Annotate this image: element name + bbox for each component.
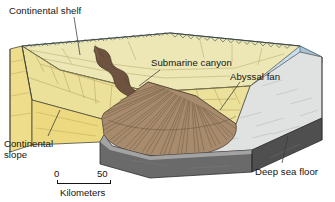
scale-bar-tick-left (57, 180, 58, 184)
label-continental-slope-line1: Continental (4, 138, 53, 149)
scale-bar-min-value: 0 (54, 168, 59, 179)
scale-bar: 0 50 Kilometers (54, 168, 128, 198)
label-continental-slope-line2: slope (4, 149, 27, 160)
scale-bar-units: Kilometers (60, 187, 128, 198)
label-abyssal-fan: Abyssal fan (230, 71, 280, 82)
scale-bar-numbers: 0 50 (54, 168, 128, 180)
scale-bar-max-value: 50 (97, 168, 108, 179)
label-continental-shelf: Continental shelf (9, 5, 81, 16)
block-diagram-figure: Continental shelf Submarine canyon Abyss… (0, 0, 335, 202)
scale-bar-line (57, 183, 111, 184)
scale-bar-rule (57, 180, 111, 186)
label-submarine-canyon: Submarine canyon (151, 57, 232, 68)
scale-bar-tick-right (110, 180, 111, 184)
label-deep-sea-floor: Deep sea floor (255, 166, 318, 177)
label-continental-slope: Continental slope (4, 138, 53, 160)
